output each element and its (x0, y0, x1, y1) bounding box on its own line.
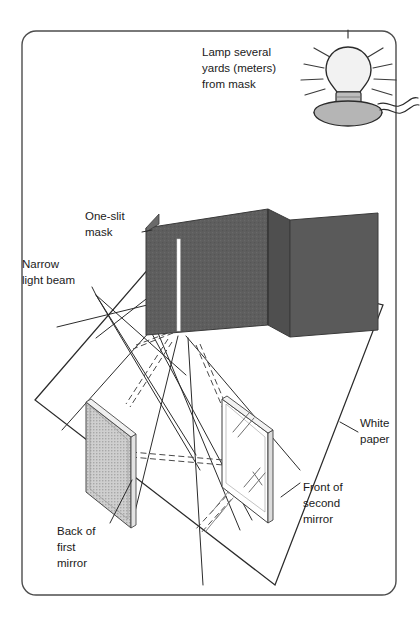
label-first-mirror-line3: mirror (57, 557, 87, 569)
label-narrow-light-beam: Narrow light beam (22, 258, 75, 286)
label-lamp-line3: from mask (202, 78, 256, 90)
label-paper-line1: White (360, 417, 389, 429)
label-first-mirror-line2: first (57, 541, 76, 553)
label-second-mirror-line1: Front of (303, 481, 343, 493)
label-beam-line1: Narrow (22, 258, 60, 270)
label-paper-line2: paper (360, 433, 390, 445)
label-mask-line2: mask (85, 226, 113, 238)
label-second-mirror-line2: second (303, 497, 340, 509)
diagram-canvas: Lamp several yards (meters) from mask On… (0, 0, 420, 625)
label-one-slit-mask: One-slit mask (85, 210, 125, 238)
label-white-paper: White paper (360, 417, 390, 445)
label-lamp-line2: yards (meters) (202, 62, 276, 74)
mask-slit (177, 239, 180, 331)
label-back-first-mirror: Back of first mirror (57, 525, 96, 569)
label-lamp-line1: Lamp several (202, 46, 271, 58)
label-front-second-mirror: Front of second mirror (303, 481, 343, 525)
label-lamp: Lamp several yards (meters) from mask (202, 46, 276, 90)
label-beam-line2: light beam (22, 274, 75, 286)
optics-diagram-figure: Lamp several yards (meters) from mask On… (0, 0, 420, 625)
label-mask-line1: One-slit (85, 210, 125, 222)
folded-slit-mask (146, 209, 378, 337)
label-first-mirror-line1: Back of (57, 525, 96, 537)
label-second-mirror-line3: mirror (303, 513, 333, 525)
light-bulb-lamp (301, 30, 419, 126)
